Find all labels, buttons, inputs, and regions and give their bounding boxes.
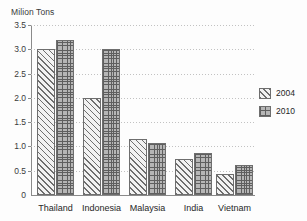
gridline: 0 xyxy=(31,195,255,196)
legend-label-2010: 2010 xyxy=(276,106,295,116)
y-tick-label: 2.5 xyxy=(14,69,26,79)
bar-group-thailand xyxy=(37,25,74,195)
y-tick-label: 1.0 xyxy=(14,141,26,151)
y-axis-label: Milion Tons xyxy=(11,7,54,17)
x-tick-label-vietnam: Vietnam xyxy=(206,203,263,213)
y-tick-label: 3.5 xyxy=(14,20,26,30)
bar-indonesia-2010[interactable] xyxy=(102,49,120,195)
y-tick-label: 2.0 xyxy=(14,93,26,103)
bar-malaysia-2004[interactable] xyxy=(129,139,147,195)
y-tick-mark xyxy=(28,98,31,99)
bar-india-2010[interactable] xyxy=(194,153,212,195)
chart-legend: 2004 2010 xyxy=(259,84,305,120)
y-tick-mark xyxy=(28,171,31,172)
y-tick-mark xyxy=(28,122,31,123)
legend-swatch-2004-icon xyxy=(259,88,271,99)
y-tick-mark xyxy=(28,74,31,75)
bar-thailand-2004[interactable] xyxy=(37,49,55,195)
plot-area: 3.5 3.0 2.5 2.0 1.5 1.0 0.5 0 xyxy=(31,25,255,195)
bar-vietnam-2004[interactable] xyxy=(216,174,234,195)
legend-label-2004: 2004 xyxy=(276,88,295,98)
bar-group-malaysia xyxy=(129,25,166,195)
bar-malaysia-2010[interactable] xyxy=(148,143,166,195)
y-tick-mark xyxy=(28,146,31,147)
bar-india-2004[interactable] xyxy=(175,159,193,195)
bar-thailand-2010[interactable] xyxy=(56,40,74,195)
y-tick-label: 1.5 xyxy=(14,117,26,127)
bar-group-india xyxy=(175,25,212,195)
y-tick-mark xyxy=(28,49,31,50)
bar-group-indonesia xyxy=(83,25,120,195)
bar-chart-figure: Milion Tons 3.5 3.0 2.5 2.0 1.5 1.0 xyxy=(0,0,307,221)
bar-indonesia-2004[interactable] xyxy=(83,98,101,195)
legend-swatch-2010-icon xyxy=(259,106,271,117)
legend-entry-2010[interactable]: 2010 xyxy=(259,102,305,120)
y-tick-label: 0.5 xyxy=(14,166,26,176)
y-tick-label: 3.0 xyxy=(14,44,26,54)
y-tick-mark xyxy=(28,25,31,26)
legend-entry-2004[interactable]: 2004 xyxy=(259,84,305,102)
bar-vietnam-2010[interactable] xyxy=(235,165,253,195)
y-tick-label: 0 xyxy=(21,190,26,200)
bar-group-vietnam xyxy=(216,25,253,195)
chart-title xyxy=(0,0,307,1)
